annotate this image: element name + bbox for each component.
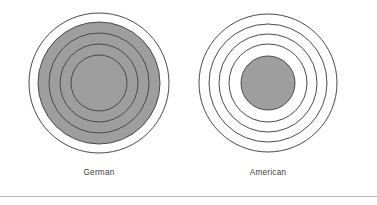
concentric-rings-svg-american [178, 0, 358, 172]
panel-label-german: German [9, 167, 189, 178]
ring-american-5 [241, 56, 295, 110]
panel-label-american: American [178, 167, 358, 178]
diagram-panel-german: German [9, 0, 189, 205]
concentric-rings-german [9, 0, 189, 172]
ring-german-5 [71, 55, 127, 111]
bottom-divider [0, 196, 377, 197]
figure-root: German American [0, 0, 377, 205]
concentric-rings-american [178, 0, 358, 172]
concentric-rings-svg-german [9, 0, 189, 172]
diagram-panel-american: American [178, 0, 358, 205]
